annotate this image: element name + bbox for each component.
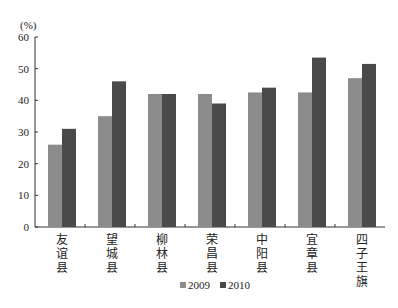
bar-2009 (148, 94, 162, 227)
legend-swatch-2009 (180, 282, 186, 288)
legend-swatch-2010 (220, 282, 226, 288)
bar-2010 (312, 58, 326, 227)
y-tick-label: 30 (18, 126, 30, 138)
x-category-label: 荣昌县 (205, 233, 219, 275)
y-tick-label: 60 (18, 31, 30, 43)
bar-2010 (262, 88, 276, 227)
legend-label-2010: 2010 (228, 279, 250, 291)
bar-2009 (298, 92, 312, 227)
bar-2009 (248, 92, 262, 227)
x-category-label: 友谊县 (55, 233, 69, 275)
y-tick-label: 10 (18, 189, 30, 201)
x-category-label: 中阳县 (255, 233, 269, 275)
y-tick-label: 0 (24, 221, 30, 233)
legend-label-2009: 2009 (188, 279, 210, 291)
legend-item-2009: 2009 (180, 279, 210, 291)
y-tick-label: 20 (18, 158, 30, 170)
x-category-label: 四子王旗 (355, 233, 369, 289)
bar-chart: (%) 0102030405060 友谊县望城县柳林县荣昌县中阳县宜章县四子王旗… (0, 0, 398, 308)
y-tick-label: 50 (18, 63, 30, 75)
legend-item-2010: 2010 (220, 279, 250, 291)
bar-2010 (212, 104, 226, 228)
legend: 2009 2010 (180, 279, 250, 291)
bar-2009 (198, 94, 212, 227)
bar-2009 (48, 145, 62, 227)
bar-2010 (62, 129, 76, 227)
bar-2010 (362, 64, 376, 227)
y-axis-unit-label: (%) (20, 19, 37, 31)
bar-2010 (162, 94, 176, 227)
x-category-label: 柳林县 (155, 233, 169, 275)
bar-2010 (112, 81, 126, 227)
x-category-label: 望城县 (105, 233, 119, 275)
bar-2009 (98, 116, 112, 227)
bar-2009 (348, 78, 362, 227)
y-tick-label: 40 (18, 94, 30, 106)
x-category-label: 宜章县 (305, 233, 319, 275)
